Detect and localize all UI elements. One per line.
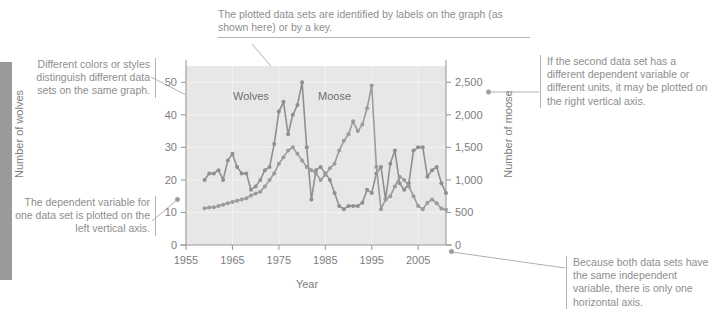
- series-point-wolves: [333, 191, 337, 195]
- y-axis-left-tick-label: 0: [171, 239, 177, 251]
- series-point-moose: [291, 145, 295, 149]
- series-point-wolves: [337, 204, 341, 208]
- series-point-wolves: [412, 149, 416, 153]
- series-point-wolves: [351, 204, 355, 208]
- series-point-wolves: [226, 158, 230, 162]
- x-axis-tick-label: 1955: [174, 254, 198, 266]
- series-point-wolves: [249, 188, 253, 192]
- series-point-moose: [379, 207, 383, 211]
- series-point-wolves: [435, 165, 439, 169]
- series-point-moose: [212, 205, 216, 209]
- series-point-wolves: [295, 103, 299, 107]
- series-point-moose: [230, 200, 234, 204]
- series-point-moose: [258, 190, 262, 194]
- series-point-moose: [425, 201, 429, 205]
- series-point-moose: [254, 192, 258, 196]
- y-axis-right-tick-label: 1,500: [455, 141, 483, 153]
- series-point-moose: [328, 166, 332, 170]
- y-axis-right-tick-label: 1,000: [455, 174, 483, 186]
- series-point-wolves: [291, 113, 295, 117]
- x-axis-tick-label: 1965: [220, 254, 244, 266]
- series-point-moose: [412, 194, 416, 198]
- series-point-moose: [286, 149, 290, 153]
- series-point-moose: [300, 158, 304, 162]
- series-point-moose: [277, 162, 281, 166]
- series-point-wolves: [388, 162, 392, 166]
- series-point-moose: [337, 149, 341, 153]
- series-point-moose: [207, 206, 211, 210]
- series-point-moose: [235, 199, 239, 203]
- series-point-wolves: [286, 132, 290, 136]
- series-point-moose: [244, 196, 248, 200]
- series-point-moose: [360, 123, 364, 127]
- series-point-moose: [439, 207, 443, 211]
- y-axis-right-title: Number of moose: [502, 79, 514, 189]
- y-axis-right-tick-label: 500: [455, 206, 473, 218]
- x-axis-tick-label: 1975: [267, 254, 291, 266]
- y-axis-left-title: Number of wolves: [13, 79, 25, 189]
- series-point-moose: [402, 178, 406, 182]
- y-axis-left-tick-label: 20: [165, 174, 177, 186]
- series-point-wolves: [258, 178, 262, 182]
- y-axis-left-tick-label: 10: [165, 206, 177, 218]
- series-point-moose: [272, 171, 276, 175]
- series-point-wolves: [416, 145, 420, 149]
- plot-area-background: [186, 66, 446, 245]
- y-axis-left-tick-label: 40: [165, 109, 177, 121]
- series-point-moose: [319, 178, 323, 182]
- series-point-moose: [416, 204, 420, 208]
- series-point-wolves: [240, 171, 244, 175]
- series-point-moose: [221, 203, 225, 207]
- y-axis-left-tick-label: 50: [165, 76, 177, 88]
- series-point-wolves: [430, 168, 434, 172]
- series-point-moose: [323, 173, 327, 177]
- series-point-moose: [365, 106, 369, 110]
- series-point-moose: [421, 207, 425, 211]
- series-point-moose: [347, 132, 351, 136]
- series-point-moose: [351, 119, 355, 123]
- series-label-wolves: Wolves: [233, 90, 269, 102]
- series-point-wolves: [398, 181, 402, 185]
- series-point-moose: [388, 194, 392, 198]
- series-point-wolves: [305, 145, 309, 149]
- series-point-wolves: [272, 142, 276, 146]
- series-point-moose: [407, 184, 411, 188]
- series-point-wolves: [365, 188, 369, 192]
- series-point-wolves: [328, 178, 332, 182]
- series-point-moose: [268, 178, 272, 182]
- y-axis-right-tick-label: 0: [455, 239, 461, 251]
- series-label-moose: Moose: [318, 90, 351, 102]
- series-point-moose: [314, 171, 318, 175]
- series-point-wolves: [444, 191, 448, 195]
- series-point-wolves: [263, 168, 267, 172]
- series-point-wolves: [230, 152, 234, 156]
- series-point-moose: [309, 168, 313, 172]
- series-point-moose: [398, 175, 402, 179]
- series-point-moose: [384, 197, 388, 201]
- series-point-moose: [356, 129, 360, 133]
- series-point-wolves: [370, 191, 374, 195]
- series-point-wolves: [268, 165, 272, 169]
- series-point-wolves: [277, 110, 281, 114]
- y-axis-right-tick-label: 2,500: [455, 76, 483, 88]
- series-point-wolves: [309, 197, 313, 201]
- series-point-moose: [342, 139, 346, 143]
- series-point-wolves: [203, 178, 207, 182]
- series-point-wolves: [421, 145, 425, 149]
- series-point-wolves: [425, 175, 429, 179]
- series-point-moose: [240, 197, 244, 201]
- series-point-moose: [263, 184, 267, 188]
- series-point-wolves: [347, 204, 351, 208]
- series-point-wolves: [221, 178, 225, 182]
- series-point-moose: [226, 201, 230, 205]
- series-point-wolves: [282, 100, 286, 104]
- y-axis-left-tick-label: 30: [165, 141, 177, 153]
- series-point-wolves: [217, 168, 221, 172]
- series-point-wolves: [244, 171, 248, 175]
- series-point-moose: [435, 201, 439, 205]
- x-axis-title: Year: [262, 278, 352, 290]
- series-point-moose: [305, 165, 309, 169]
- y-axis-right-tick-label: 2,000: [455, 109, 483, 121]
